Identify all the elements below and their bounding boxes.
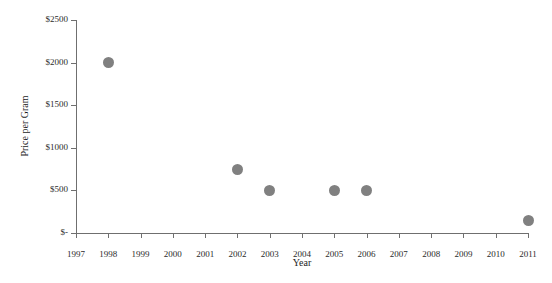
data-point (329, 185, 340, 196)
x-axis-title: Year (76, 258, 528, 268)
x-axis-tick (431, 233, 432, 238)
y-axis-tick (71, 105, 76, 106)
x-axis-tick (76, 233, 77, 238)
y-axis-tick-label-text: $- (61, 228, 69, 237)
y-axis-tick-label-text: $1500 (46, 100, 69, 109)
x-axis-tick (399, 233, 400, 238)
y-axis-tick (71, 148, 76, 149)
x-axis-tick (528, 233, 529, 238)
x-axis-tick (173, 233, 174, 238)
y-axis-line (76, 20, 77, 234)
y-axis-tick (71, 63, 76, 64)
data-point (103, 57, 114, 68)
y-axis-title: Price per Gram (15, 20, 35, 233)
scatter-chart: $-$500$1000$1500$2000$2500 1997199819992… (0, 0, 552, 283)
x-axis-tick (270, 233, 271, 238)
y-axis-tick-label-text: $1000 (46, 143, 69, 152)
x-axis-tick (463, 233, 464, 238)
data-point (232, 164, 243, 175)
y-axis-tick-label-text: $2000 (46, 58, 69, 67)
x-axis-tick (334, 233, 335, 238)
x-axis-tick (367, 233, 368, 238)
x-axis-tick (108, 233, 109, 238)
x-axis-tick (496, 233, 497, 238)
x-axis-tick (141, 233, 142, 238)
y-axis-tick (71, 20, 76, 21)
y-axis-tick-label-text: $2500 (46, 15, 69, 24)
x-axis-tick (302, 233, 303, 238)
x-axis-tick (237, 233, 238, 238)
y-axis-tick-label-text: $500 (50, 185, 68, 194)
data-point (523, 215, 534, 226)
data-point (264, 185, 275, 196)
data-point (361, 185, 372, 196)
y-axis-tick (71, 190, 76, 191)
x-axis-tick (205, 233, 206, 238)
